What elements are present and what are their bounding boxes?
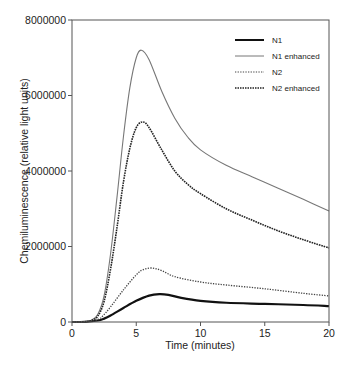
x-axis-title: Time (minutes) <box>165 339 235 351</box>
legend-label-n2: N2 <box>272 68 283 77</box>
chemiluminescence-chart: 02000000400000060000008000000 05101520 T… <box>0 0 350 367</box>
legend-label-n1-enhanced: N1 enhanced <box>272 52 320 61</box>
x-axis: 05101520 <box>69 322 335 339</box>
y-tick-label: 0 <box>60 316 66 328</box>
x-tick-label: 0 <box>69 327 75 339</box>
x-tick-label: 10 <box>195 327 207 339</box>
legend: N1 N1 enhanced N2 N2 enhanced <box>235 36 320 93</box>
x-tick-label: 20 <box>323 327 335 339</box>
y-tick-label: 6000000 <box>25 89 66 101</box>
legend-label-n2-enhanced: N2 enhanced <box>272 84 320 93</box>
y-tick-label: 4000000 <box>25 165 66 177</box>
y-axis-title: Chemiluminescence (relative light units) <box>18 78 30 264</box>
y-axis: 02000000400000060000008000000 <box>25 14 72 328</box>
series-line-n2-enhanced <box>72 122 329 322</box>
legend-label-n1: N1 <box>272 36 283 45</box>
plot-frame <box>72 20 329 322</box>
series-line-n2 <box>72 268 329 322</box>
series-line-n1 <box>72 294 329 322</box>
x-tick-label: 15 <box>259 327 271 339</box>
x-tick-label: 5 <box>133 327 139 339</box>
y-tick-label: 2000000 <box>25 240 66 252</box>
y-tick-label: 8000000 <box>25 14 66 26</box>
